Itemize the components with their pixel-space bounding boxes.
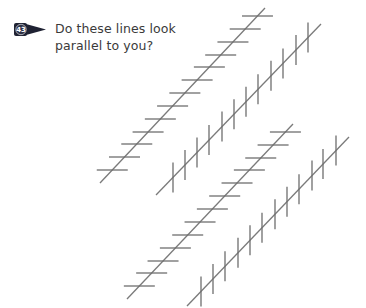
zollner-illusion-figure (0, 0, 366, 308)
diagonal-line-group (156, 22, 321, 195)
diagonal-line-group (187, 136, 349, 307)
